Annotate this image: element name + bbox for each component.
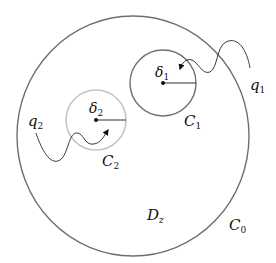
diagram-canvas: δ1 δ2 C1 C2 C0 q1 q2 Dz [0,0,276,263]
label-c0: C0 [229,216,246,235]
center-dot-delta2 [94,118,98,122]
label-q2: q2 [28,112,43,131]
wavy-path-q2 [36,130,108,161]
wavy-path-q1 [180,41,250,73]
label-c1: C1 [184,112,201,131]
outer-circle-c0 [17,16,249,256]
label-delta1: δ1 [155,64,169,82]
label-c2: C2 [102,152,119,171]
label-delta2: δ2 [89,100,103,118]
label-dz: Dz [146,206,164,225]
label-q1: q1 [250,76,265,95]
